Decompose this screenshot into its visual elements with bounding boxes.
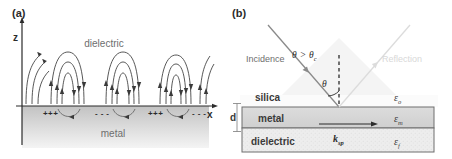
panel-b: Incidence Reflection θ>θc θ d k — [226, 0, 452, 159]
greater-than-symbol: > — [300, 50, 306, 60]
incidence-label: Incidence — [246, 54, 285, 64]
surface-charge-2: - - - — [95, 109, 109, 118]
permittivity-silica-label: εo — [394, 92, 402, 105]
critical-angle-condition-label: θ>θc — [292, 50, 317, 62]
surface-charge-1: +++ — [43, 109, 58, 118]
theta-c-subscript: c — [314, 55, 317, 62]
theta-symbol: θ — [292, 50, 297, 60]
panel-a-label: (a) — [12, 7, 26, 19]
surface-charge-4: - - - — [192, 109, 206, 118]
panel-b-label: (b) — [232, 7, 246, 19]
z-axis-label: z — [13, 32, 18, 43]
epsilon-subscript-m: m — [398, 119, 403, 126]
incidence-angle-label: θ — [322, 79, 327, 89]
figure-container: z x — [0, 0, 452, 159]
reflection-label: Reflection — [382, 54, 422, 64]
metal-layer-label: metal — [258, 113, 284, 124]
field-lines-group — [26, 52, 214, 104]
panel-a: z x — [0, 0, 226, 159]
dielectric-layer-label: dielectric — [251, 136, 295, 147]
surface-charge-3: +++ — [148, 109, 163, 118]
silica-layer-label: silica — [255, 92, 280, 103]
x-axis-label: x — [207, 109, 213, 120]
dielectric-region-label-a: dielectric — [84, 38, 123, 49]
metal-region-label-a: metal — [101, 128, 125, 139]
k-subscript: sp — [337, 139, 345, 146]
thickness-label: d — [230, 112, 236, 123]
x-axis-arrowhead — [212, 104, 218, 109]
